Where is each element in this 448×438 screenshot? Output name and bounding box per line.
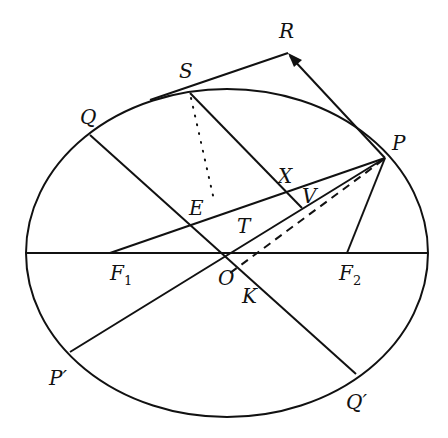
diameter-PP-prime xyxy=(70,158,385,352)
label-T: T xyxy=(237,214,252,238)
diameter-QQ-prime xyxy=(90,135,356,374)
ellipse-geometry-diagram: R S Q P X V E T F1 O K F2 P′ Q′ xyxy=(0,0,448,438)
label-O: O xyxy=(218,266,234,290)
label-P: P xyxy=(391,131,406,155)
line-F1-P xyxy=(110,158,385,253)
label-F1-sub: 1 xyxy=(124,273,132,288)
label-V: V xyxy=(302,184,319,208)
label-Q-prime: Q′ xyxy=(346,390,367,414)
label-E: E xyxy=(188,196,204,220)
label-K: K xyxy=(241,284,258,308)
label-F2-main: F xyxy=(338,261,354,285)
arrow-P-R xyxy=(290,56,385,158)
arrowhead-icon xyxy=(288,53,302,67)
label-F2: F2 xyxy=(338,261,361,288)
label-X: X xyxy=(276,164,293,188)
label-R: R xyxy=(278,19,294,43)
label-Q: Q xyxy=(80,105,96,129)
label-F1: F1 xyxy=(109,261,132,288)
chord-S-V xyxy=(190,93,302,208)
label-F2-sub: 2 xyxy=(353,273,361,288)
label-S: S xyxy=(179,59,193,83)
label-P-prime: P′ xyxy=(48,366,67,390)
label-F1-main: F xyxy=(109,261,125,285)
